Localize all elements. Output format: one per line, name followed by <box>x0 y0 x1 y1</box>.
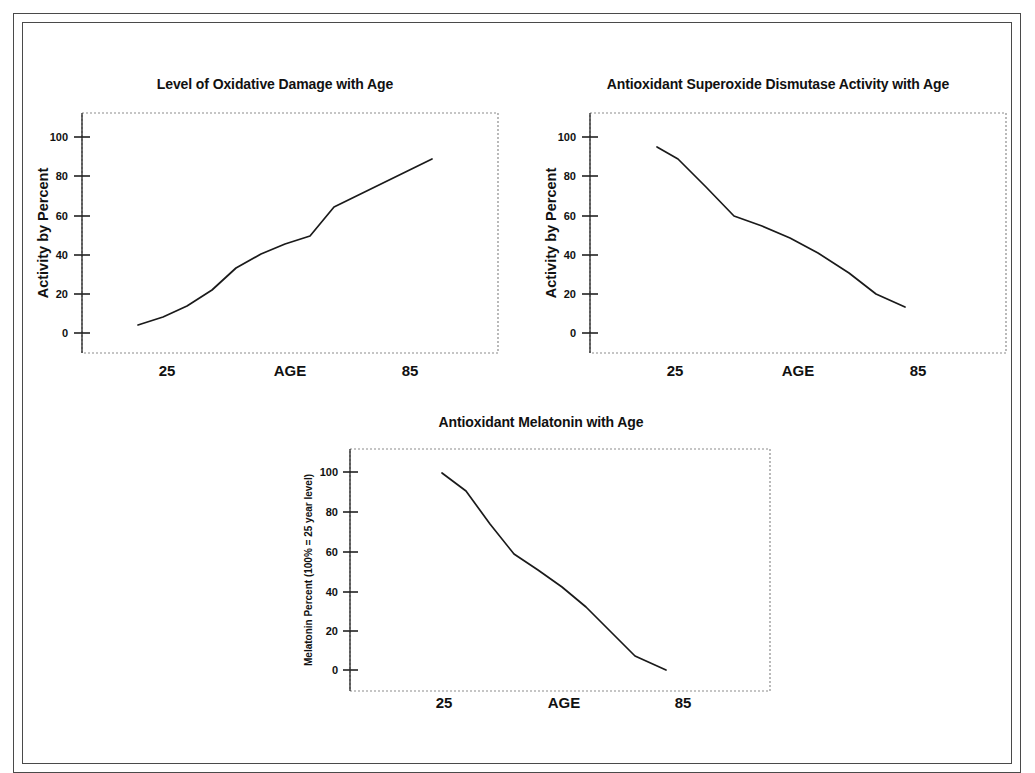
ytick-100: 100 <box>50 131 68 143</box>
xtick-25: 25 <box>436 694 453 710</box>
x-axis-tick-labels: 25 AGE 85 <box>667 362 927 379</box>
xtick-25: 25 <box>159 362 176 379</box>
y-axis-tick-labels: 100 80 60 40 20 0 <box>558 131 576 339</box>
plot-frame <box>350 449 770 691</box>
ytick-60: 60 <box>564 210 576 222</box>
plot-frame <box>590 113 1006 353</box>
chart-panel-superoxide-dismutase: Antioxidant Superoxide Dismutase Activit… <box>538 70 1018 390</box>
ytick-20: 20 <box>564 288 576 300</box>
chart-svg-oxidative-damage: 100 80 60 40 20 0 Activity by Percent 25… <box>30 70 520 380</box>
ytick-80: 80 <box>56 170 68 182</box>
plot-frame <box>82 113 498 353</box>
chart-svg-melatonin: 100 80 60 40 20 0 Melatonin Percent (100… <box>296 410 786 710</box>
ytick-40: 40 <box>326 586 338 598</box>
x-axis-tick-labels: 25 AGE 85 <box>159 362 419 379</box>
chart-panel-melatonin: Antioxidant Melatonin with Age 100 80 60… <box>296 410 786 720</box>
ytick-0: 0 <box>570 327 576 339</box>
ytick-100: 100 <box>320 466 338 478</box>
xtick-85: 85 <box>402 362 419 379</box>
ytick-60: 60 <box>56 210 68 222</box>
ytick-80: 80 <box>564 170 576 182</box>
ytick-40: 40 <box>564 249 576 261</box>
xtick-85: 85 <box>910 362 927 379</box>
ytick-20: 20 <box>326 625 338 637</box>
ytick-80: 80 <box>326 506 338 518</box>
y-axis-tick-labels: 100 80 60 40 20 0 <box>320 466 338 676</box>
y-axis-title: Melatonin Percent (100% = 25 year level) <box>303 474 314 666</box>
xtick-age: AGE <box>782 362 815 379</box>
xtick-85: 85 <box>675 694 692 710</box>
ytick-20: 20 <box>56 288 68 300</box>
x-axis-tick-labels: 25 AGE 85 <box>436 694 692 710</box>
ytick-40: 40 <box>56 249 68 261</box>
ytick-0: 0 <box>332 664 338 676</box>
xtick-age: AGE <box>274 362 307 379</box>
chart-panel-oxidative-damage: Level of Oxidative Damage with Age 100 8… <box>30 70 520 390</box>
xtick-age: AGE <box>548 694 581 710</box>
y-axis-title: Activity by Percent <box>35 168 51 299</box>
ytick-60: 60 <box>326 546 338 558</box>
chart-title-superoxide-dismutase: Antioxidant Superoxide Dismutase Activit… <box>538 76 1018 92</box>
y-axis-tick-labels: 100 80 60 40 20 0 <box>50 131 68 339</box>
chart-title-melatonin: Antioxidant Melatonin with Age <box>296 414 786 430</box>
chart-title-oxidative-damage: Level of Oxidative Damage with Age <box>30 76 520 92</box>
xtick-25: 25 <box>667 362 684 379</box>
chart-svg-superoxide-dismutase: 100 80 60 40 20 0 Activity by Percent 25… <box>538 70 1018 380</box>
ytick-100: 100 <box>558 131 576 143</box>
ytick-0: 0 <box>62 327 68 339</box>
y-axis-title: Activity by Percent <box>543 168 559 299</box>
